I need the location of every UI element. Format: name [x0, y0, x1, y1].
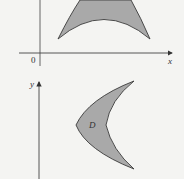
region-d-label: D [89, 121, 96, 130]
region-D [76, 81, 134, 169]
y-axis-label: y [30, 80, 34, 89]
origin-label: 0 [31, 56, 36, 65]
figure: 0 x y D [0, 0, 184, 179]
diagram-canvas [0, 0, 184, 179]
top-panel [19, 0, 172, 66]
x-axis-label: x [168, 57, 172, 66]
bottom-panel [39, 81, 134, 179]
top-crescent-region [58, 0, 150, 39]
